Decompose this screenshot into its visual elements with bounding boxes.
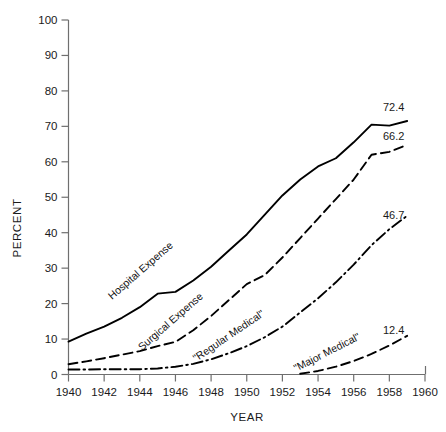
x-tick-label: 1946 <box>163 386 189 398</box>
x-tick-label: 1956 <box>341 386 367 398</box>
x-tick-label: 1954 <box>305 386 331 398</box>
y-tick-label: 50 <box>45 191 58 203</box>
end-value-major-medical: 12.4 <box>383 324 404 336</box>
line-chart-figure: 0102030405060708090100 19401942194419461… <box>0 0 446 432</box>
y-tick-labels: 0102030405060708090100 <box>38 14 57 381</box>
series-label-regular-medical: "Regular Medical" <box>190 307 266 364</box>
x-tick-marks <box>69 375 426 382</box>
end-value-hospital-expense: 72.4 <box>383 101 404 113</box>
chart-container: 0102030405060708090100 19401942194419461… <box>0 0 446 432</box>
x-tick-label: 1958 <box>377 386 403 398</box>
x-tick-label: 1942 <box>91 386 117 398</box>
end-value-surgical-expense: 66.2 <box>383 130 404 142</box>
y-tick-label: 80 <box>45 85 58 97</box>
y-axis-title: PERCENT <box>11 198 23 257</box>
x-tick-labels: 1940194219441946194819501952195419561958… <box>56 386 438 398</box>
x-tick-label: 1960 <box>412 386 438 398</box>
x-tick-label: 1940 <box>56 386 82 398</box>
x-tick-label: 1948 <box>198 386 224 398</box>
end-value-regular-medical: 46.7 <box>383 209 404 221</box>
y-tick-label: 70 <box>45 120 58 132</box>
y-tick-label: 10 <box>45 333 58 345</box>
y-tick-label: 0 <box>51 369 57 381</box>
y-tick-label: 20 <box>45 298 58 310</box>
x-tick-label: 1944 <box>127 386 153 398</box>
y-tick-marks <box>62 20 69 375</box>
y-tick-label: 30 <box>45 262 58 274</box>
series-line-hospital-expense <box>69 121 408 342</box>
y-tick-label: 40 <box>45 227 58 239</box>
y-tick-label: 100 <box>38 14 57 26</box>
x-tick-label: 1950 <box>234 386 260 398</box>
y-tick-label: 90 <box>45 49 58 61</box>
x-tick-label: 1952 <box>270 386 296 398</box>
y-tick-label: 60 <box>45 156 58 168</box>
series-label-major-medical: "Major Medical" <box>291 330 362 374</box>
x-axis-title: YEAR <box>230 411 264 423</box>
